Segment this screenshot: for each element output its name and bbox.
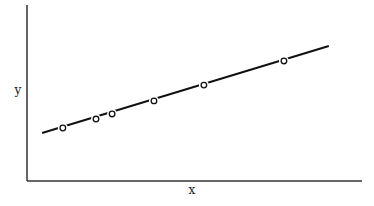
y-axis-label: y (14, 83, 22, 97)
series-layer (42, 46, 329, 133)
data-point-marker (93, 116, 99, 122)
data-point-marker (60, 125, 66, 131)
data-point-marker (201, 82, 207, 88)
data-point-marker (281, 58, 287, 64)
x-axis-label: x (189, 183, 196, 197)
data-point-marker (151, 98, 157, 104)
data-point-marker (109, 111, 115, 117)
line-chart: y x (0, 0, 374, 206)
